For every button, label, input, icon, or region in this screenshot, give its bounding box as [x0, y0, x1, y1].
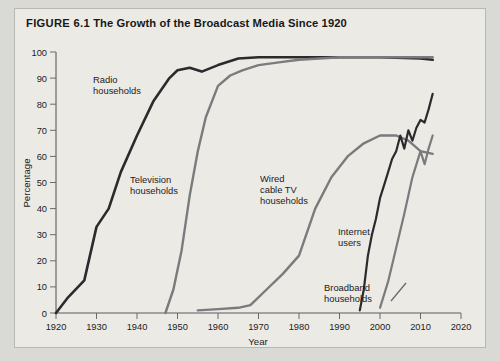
x-tick-label: 1960 [208, 322, 229, 332]
annotation-line: cable TV [260, 184, 298, 195]
x-tick-label: 1950 [167, 322, 188, 332]
chart-plot-area: 100 90 80 70 60 50 40 30 20 10 0 Percent… [14, 8, 486, 348]
x-tick-label: 1930 [86, 322, 107, 332]
annotation-line: Wired [260, 173, 284, 184]
x-tick-label: 1920 [46, 322, 67, 332]
annotation-line: users [338, 237, 361, 248]
annotation-broadband-households: Broadband households [324, 282, 406, 304]
y-axis-title: Percentage [21, 158, 32, 207]
x-axis: 1920 1930 1940 1950 1960 1970 1980 1990 … [46, 313, 472, 347]
x-tick-label: 1990 [329, 322, 350, 332]
chart-svg: 100 90 80 70 60 50 40 30 20 10 0 Percent… [14, 8, 486, 348]
annotation-leader-line [391, 283, 406, 301]
y-tick-label: 30 [37, 230, 47, 240]
annotation-line: households [324, 293, 372, 304]
y-axis: 100 90 80 70 60 50 40 30 20 10 0 Percent… [21, 48, 56, 319]
x-tick-label: 2020 [451, 322, 472, 332]
x-tick-label: 2000 [370, 322, 391, 332]
annotation-line: households [93, 85, 141, 96]
series-line-broadband-households [380, 136, 433, 308]
annotation-radio-households: Radio households [93, 74, 141, 96]
annotation-line: households [260, 195, 308, 206]
x-tick-label: 1980 [289, 322, 310, 332]
y-tick-label: 10 [37, 282, 47, 292]
y-tick-label: 40 [37, 204, 47, 214]
series-line-wired-cable-tv-households [198, 136, 433, 311]
y-tick-label: 80 [37, 100, 47, 110]
x-tick-label: 1940 [127, 322, 148, 332]
annotation-line: households [130, 185, 178, 196]
x-axis-title: Year [248, 336, 268, 347]
annotation-line: Broadband [324, 282, 370, 293]
figure-container: FIGURE 6.1 The Growth of the Broadcast M… [0, 0, 500, 361]
annotation-wired-cable-tv-households: Wired cable TV households [260, 173, 308, 206]
y-tick-label: 100 [31, 48, 47, 58]
annotation-line: Television [130, 174, 171, 185]
x-tick-label: 2010 [410, 322, 431, 332]
y-tick-label: 90 [37, 74, 47, 84]
y-tick-label: 50 [37, 178, 47, 188]
y-tick-label: 0 [42, 309, 47, 319]
series-line-television-households [165, 57, 432, 313]
y-tick-label: 70 [37, 126, 47, 136]
annotation-line: Internet [338, 226, 370, 237]
annotation-internet-users: Internet users [338, 226, 370, 248]
annotation-television-households: Television households [130, 174, 178, 196]
y-tick-label: 60 [37, 152, 47, 162]
annotation-line: Radio [93, 74, 118, 85]
series-line-internet-users [360, 94, 433, 311]
x-tick-label: 1970 [248, 322, 269, 332]
y-tick-label: 20 [37, 256, 47, 266]
